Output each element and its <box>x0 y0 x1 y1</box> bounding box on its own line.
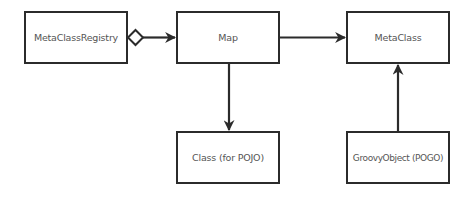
node-groovyobject-pogo: GroovyObject (POGO) <box>346 131 450 184</box>
diagram-canvas: MetaClassRegistry Map MetaClass Class (f… <box>0 0 473 200</box>
node-label: MetaClass <box>375 32 422 43</box>
node-map: Map <box>176 11 280 64</box>
aggregation-diamond-icon <box>128 30 143 45</box>
node-class-pojo: Class (for POJO) <box>176 131 280 184</box>
node-metaclass: MetaClass <box>346 11 450 64</box>
edge-registry-to-map <box>128 30 175 45</box>
node-label: Class (for POJO) <box>192 152 264 163</box>
node-label: Map <box>218 32 237 43</box>
node-label: GroovyObject (POGO) <box>353 153 443 163</box>
node-label: MetaClassRegistry <box>34 32 118 43</box>
node-metaclassregistry: MetaClassRegistry <box>24 11 128 64</box>
